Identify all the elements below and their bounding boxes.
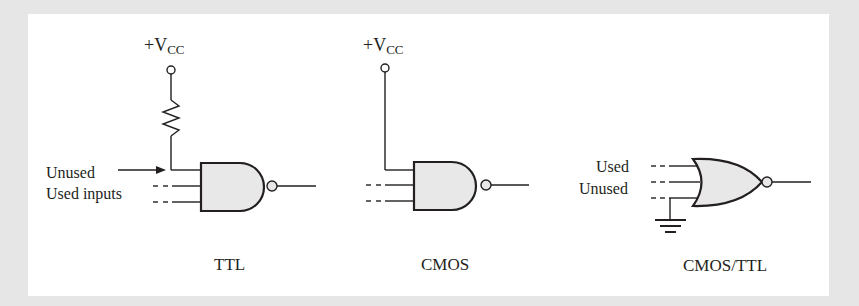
cmos-caption: CMOS xyxy=(421,255,469,274)
inverter-bubble-icon xyxy=(762,177,772,187)
cmos-circuit: +VCC CMOS xyxy=(363,35,529,274)
ttl-vcc-terminal xyxy=(167,66,175,74)
cmos-vcc-label: +VCC xyxy=(363,35,404,57)
used-label: Used xyxy=(596,158,629,175)
cmos-ttl-caption: CMOS/TTL xyxy=(683,256,767,275)
nand-gate-icon xyxy=(414,162,476,210)
unused-inputs-diagram: +VCC Unused Used inputs TTL +VCC xyxy=(0,0,859,306)
unused-label: Unused xyxy=(579,180,628,197)
ground-icon xyxy=(655,220,686,232)
unused-label: Unused xyxy=(46,164,95,181)
nor-gate-icon xyxy=(693,159,762,206)
inverter-bubble-icon xyxy=(481,180,491,190)
cmos-ttl-circuit: Used Unused CMOS/TTL xyxy=(579,158,811,275)
used-inputs-label: Used inputs xyxy=(46,185,122,203)
arrow-icon xyxy=(156,166,166,174)
nand-gate-icon xyxy=(201,163,264,211)
ttl-caption: TTL xyxy=(214,255,245,274)
ttl-circuit: +VCC Unused Used inputs TTL xyxy=(46,35,316,274)
resistor-icon xyxy=(163,100,179,136)
inverter-bubble-icon xyxy=(267,181,277,191)
ttl-vcc-label: +VCC xyxy=(144,35,185,57)
cmos-vcc-terminal xyxy=(381,64,389,72)
